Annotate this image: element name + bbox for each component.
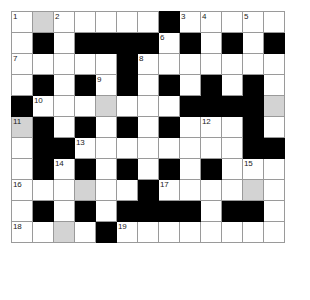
crossword-cell[interactable] [159,96,180,117]
crossword-cell[interactable]: 10 [33,96,54,117]
crossword-cell[interactable] [201,54,222,75]
crossword-cell[interactable] [201,180,222,201]
crossword-cell[interactable]: 5 [243,12,264,33]
crossword-cell[interactable] [75,222,96,243]
crossword-cell[interactable] [180,180,201,201]
crossword-cell[interactable] [243,54,264,75]
crossword-cell[interactable] [201,222,222,243]
crossword-cell[interactable] [264,159,285,180]
crossword-cell[interactable] [96,159,117,180]
crossword-cell[interactable] [243,222,264,243]
crossword-cell[interactable] [54,54,75,75]
crossword-cell[interactable] [33,180,54,201]
crossword-cell[interactable]: 6 [159,33,180,54]
crossword-cell[interactable]: 17 [159,180,180,201]
crossword-cell[interactable]: 8 [138,54,159,75]
crossword-cell[interactable] [12,138,33,159]
crossword-cell[interactable] [96,138,117,159]
crossword-cell[interactable] [180,117,201,138]
crossword-cell[interactable] [117,12,138,33]
crossword-cell[interactable] [180,54,201,75]
crossword-cell[interactable] [159,54,180,75]
crossword-cell[interactable] [180,222,201,243]
crossword-cell[interactable] [54,201,75,222]
crossword-cell[interactable] [12,33,33,54]
crossword-cell[interactable]: 9 [96,75,117,96]
crossword-cell[interactable] [201,33,222,54]
crossword-cell[interactable] [264,75,285,96]
crossword-cell[interactable] [264,180,285,201]
crossword-cell[interactable] [264,201,285,222]
crossword-cell[interactable] [54,75,75,96]
crossword-cell[interactable] [243,33,264,54]
crossword-cell[interactable] [264,222,285,243]
crossword-cell[interactable] [12,159,33,180]
crossword-cell[interactable] [96,12,117,33]
crossword-cell[interactable] [54,180,75,201]
crossword-cell[interactable] [180,159,201,180]
crossword-cell[interactable]: 15 [243,159,264,180]
crossword-cell[interactable]: 3 [180,12,201,33]
crossword-cell[interactable] [75,12,96,33]
crossword-cell[interactable] [12,75,33,96]
crossword-row: 12345 [12,12,285,33]
crossword-cell[interactable] [222,138,243,159]
crossword-cell[interactable] [54,33,75,54]
crossword-cell[interactable] [33,54,54,75]
crossword-cell[interactable] [138,159,159,180]
crossword-cell[interactable] [96,201,117,222]
crossword-cell[interactable] [33,12,54,33]
crossword-cell[interactable] [117,96,138,117]
crossword-cell[interactable] [138,117,159,138]
crossword-cell[interactable] [138,96,159,117]
crossword-cell[interactable] [12,201,33,222]
crossword-cell[interactable] [243,180,264,201]
crossword-cell[interactable] [159,138,180,159]
crossword-cell[interactable] [117,138,138,159]
crossword-cell[interactable] [33,222,54,243]
crossword-cell[interactable] [117,180,138,201]
crossword-grid[interactable]: 12345678910111213141516171819 [11,11,285,243]
crossword-cell[interactable] [264,96,285,117]
crossword-cell[interactable] [222,75,243,96]
crossword-cell[interactable] [96,96,117,117]
crossword-cell[interactable] [75,54,96,75]
crossword-cell[interactable] [54,117,75,138]
crossword-cell[interactable]: 18 [12,222,33,243]
crossword-cell[interactable] [180,138,201,159]
crossword-cell[interactable] [138,222,159,243]
crossword-cell[interactable] [222,180,243,201]
crossword-cell[interactable] [159,222,180,243]
crossword-cell[interactable]: 19 [117,222,138,243]
crossword-cell[interactable]: 14 [54,159,75,180]
crossword-cell[interactable] [54,96,75,117]
crossword-cell[interactable]: 16 [12,180,33,201]
crossword-cell[interactable] [75,180,96,201]
crossword-cell[interactable] [96,180,117,201]
crossword-cell[interactable] [222,159,243,180]
crossword-cell[interactable] [222,54,243,75]
crossword-cell[interactable]: 13 [75,138,96,159]
crossword-cell[interactable] [264,117,285,138]
crossword-cell[interactable]: 7 [12,54,33,75]
crossword-cell[interactable] [201,201,222,222]
crossword-cell[interactable]: 4 [201,12,222,33]
crossword-cell[interactable]: 2 [54,12,75,33]
crossword-cell[interactable]: 1 [12,12,33,33]
crossword-cell[interactable]: 12 [201,117,222,138]
crossword-cell[interactable] [138,12,159,33]
crossword-cell[interactable] [138,75,159,96]
crossword-cell[interactable] [222,117,243,138]
crossword-cell[interactable] [96,54,117,75]
crossword-cell[interactable] [54,222,75,243]
crossword-cell[interactable] [222,12,243,33]
crossword-cell[interactable] [96,117,117,138]
crossword-cell[interactable] [138,138,159,159]
crossword-cell[interactable] [201,138,222,159]
crossword-cell[interactable] [75,96,96,117]
crossword-cell[interactable]: 11 [12,117,33,138]
crossword-cell[interactable] [264,12,285,33]
crossword-cell[interactable] [264,54,285,75]
crossword-cell[interactable] [222,222,243,243]
crossword-cell[interactable] [180,75,201,96]
